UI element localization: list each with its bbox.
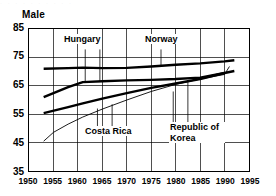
- y-tick-55: 55: [2, 109, 24, 119]
- series-label-hungary: Hungary: [63, 34, 102, 44]
- chart-root: · · · · · · · · · · Male 85 75 65 55 45 …: [0, 0, 276, 196]
- series-line-hungary: [44, 71, 235, 97]
- y-tick-75: 75: [2, 51, 24, 61]
- series-label-republic-of-korea: Republic of Korea: [169, 122, 225, 143]
- cut-off-title-artifact: · · · · · · · · · ·: [0, 0, 276, 7]
- series-line-norway: [44, 60, 235, 69]
- plot-area: [28, 28, 250, 172]
- gridlines: [29, 29, 249, 171]
- chart-title: Male: [22, 9, 45, 20]
- series-label-costa-rica: Costa Rica: [84, 126, 133, 136]
- plot-svg: [29, 29, 249, 171]
- series-line-republic-of-korea: [44, 73, 225, 113]
- series-label-norway: Norway: [144, 34, 179, 44]
- y-tick-65: 65: [2, 80, 24, 90]
- y-tick-45: 45: [2, 138, 24, 148]
- y-tick-85: 85: [2, 23, 24, 33]
- x-tick-1995: 1995: [235, 177, 265, 186]
